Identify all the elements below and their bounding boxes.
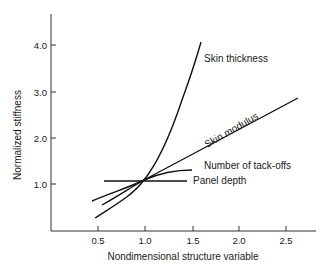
x-ticks	[98, 226, 286, 231]
label-tack-offs: Number of tack-offs	[204, 160, 291, 171]
y-tick-label: 4.0	[34, 40, 47, 51]
curve-skin-thickness	[95, 42, 201, 218]
x-tick-label: 0.5	[91, 235, 104, 246]
y-tick-label: 3.0	[34, 87, 47, 98]
y-axis-title: Normalized stiffness	[12, 90, 23, 180]
y-ticks	[51, 45, 56, 184]
x-tick-label: 2.0	[232, 235, 245, 246]
label-skin-thickness: Skin thickness	[204, 53, 268, 64]
label-panel-depth: Panel depth	[193, 175, 246, 186]
x-tick-label: 2.5	[279, 235, 292, 246]
label-skin-modulus: Skin modulus	[203, 110, 260, 150]
x-axis-title: Nondimensional structure variable	[107, 251, 259, 262]
x-tick-label: 1.5	[186, 235, 199, 246]
x-tick-label: 1.0	[138, 235, 151, 246]
stiffness-chart: 4.0 3.0 2.0 1.0 0.5 1.0 1.5 2.0 2.5 Nond…	[0, 0, 328, 273]
y-tick-label: 2.0	[34, 133, 47, 144]
y-tick-label: 1.0	[34, 179, 47, 190]
